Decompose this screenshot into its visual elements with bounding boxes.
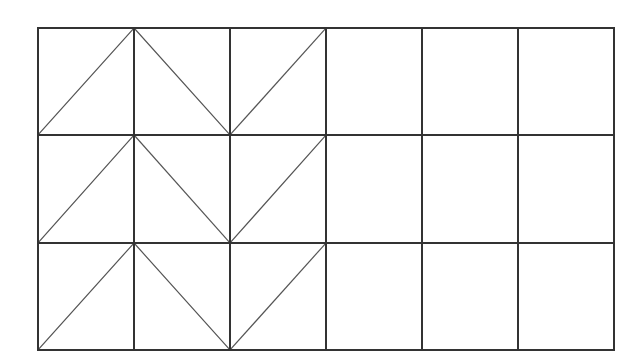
grid-diagram <box>0 0 641 361</box>
background <box>0 0 641 361</box>
